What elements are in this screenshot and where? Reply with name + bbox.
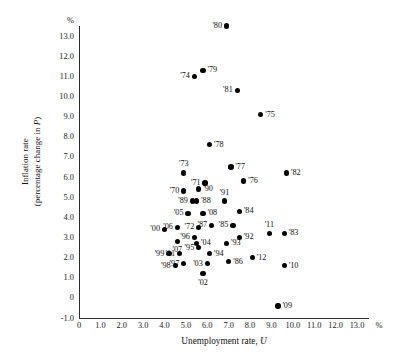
data-point-y11 bbox=[267, 231, 272, 236]
data-point-y05 bbox=[185, 211, 190, 216]
data-point-y74 bbox=[192, 74, 197, 79]
point-label-y04: '04 bbox=[201, 239, 211, 247]
point-label-y10: '10 bbox=[289, 262, 299, 270]
point-label-y85: '85 bbox=[219, 221, 229, 229]
scatter-chart: %13.012.011.010.09.08.07.06.05.04.03.02.… bbox=[0, 0, 400, 362]
point-label-y74: '74 bbox=[180, 72, 190, 80]
data-point-y07 bbox=[175, 239, 180, 244]
y-tick-3.0: 3.0 bbox=[40, 233, 74, 242]
data-point-y87 bbox=[209, 223, 214, 228]
y-tick-6.0: 6.0 bbox=[40, 173, 74, 182]
point-label-y75: '75 bbox=[265, 110, 275, 118]
point-label-y95: '95 bbox=[185, 243, 195, 251]
point-label-y78: '78 bbox=[214, 141, 224, 149]
data-point-y12 bbox=[250, 255, 255, 260]
data-point-y84 bbox=[237, 209, 242, 214]
data-point-y83 bbox=[282, 231, 287, 236]
point-label-y83: '83 bbox=[289, 229, 299, 237]
y-tick-1.0: 1.0 bbox=[40, 273, 74, 282]
point-label-y06: '06 bbox=[163, 223, 173, 231]
data-point-y10 bbox=[282, 263, 287, 268]
data-point-y94 bbox=[207, 251, 212, 256]
point-label-y90: '90 bbox=[203, 185, 213, 193]
point-label-y12: '12 bbox=[257, 253, 267, 261]
data-point-y90 bbox=[196, 186, 201, 191]
data-point-y91 bbox=[222, 198, 227, 203]
data-point-y06 bbox=[175, 225, 180, 230]
y-tick-0: 0 bbox=[40, 293, 74, 302]
data-point-y02 bbox=[200, 271, 205, 276]
data-point-y78 bbox=[207, 142, 212, 147]
point-label-y01: '01 bbox=[165, 249, 175, 257]
data-point-y82 bbox=[284, 170, 289, 175]
y-tick-4.0: 4.0 bbox=[40, 213, 74, 222]
data-point-y96 bbox=[192, 235, 197, 240]
data-point-y81 bbox=[235, 88, 240, 93]
point-label-y94: '94 bbox=[214, 249, 224, 257]
point-label-y03: '03 bbox=[193, 260, 203, 268]
data-point-y09 bbox=[275, 303, 280, 308]
data-point-y01 bbox=[177, 251, 182, 256]
point-label-y76: '76 bbox=[248, 177, 258, 185]
x-axis-title: Unemployment rate, U bbox=[79, 336, 369, 346]
y-tick-11.0: 11.0 bbox=[40, 72, 74, 81]
data-point-y95 bbox=[196, 245, 201, 250]
data-point-y93 bbox=[224, 241, 229, 246]
data-point-y08 bbox=[200, 211, 205, 216]
point-label-y02: '02 bbox=[198, 279, 208, 287]
data-point-y75 bbox=[258, 112, 263, 117]
data-point-y80 bbox=[224, 23, 229, 28]
data-point-y86 bbox=[226, 259, 231, 264]
point-label-y92: '92 bbox=[244, 233, 254, 241]
point-label-y73: '73 bbox=[179, 160, 189, 168]
point-label-y86: '86 bbox=[233, 257, 243, 265]
data-point-y88 bbox=[194, 198, 199, 203]
y-tick-8.0: 8.0 bbox=[40, 132, 74, 141]
y-axis-unit-label: % bbox=[40, 16, 74, 25]
data-point-y79 bbox=[200, 68, 205, 73]
point-label-y91: '91 bbox=[220, 188, 230, 196]
point-label-y70: '70 bbox=[170, 187, 180, 195]
y-tick-7.0: 7.0 bbox=[40, 152, 74, 161]
point-label-y72: '72 bbox=[185, 223, 195, 231]
y-tick-10.0: 10.0 bbox=[40, 92, 74, 101]
data-point-y73 bbox=[181, 170, 186, 175]
data-point-y76 bbox=[241, 178, 246, 183]
point-label-y09: '09 bbox=[282, 302, 292, 310]
y-tick-12.0: 12.0 bbox=[40, 52, 74, 61]
y-tick-13.0: 13.0 bbox=[40, 32, 74, 41]
point-label-y97: '97 bbox=[170, 260, 180, 268]
point-label-y79: '79 bbox=[208, 66, 218, 74]
y-tick-2.0: 2.0 bbox=[40, 253, 74, 262]
point-label-y89: '89 bbox=[178, 197, 188, 205]
y-axis-line bbox=[79, 26, 80, 319]
y-axis-title: Inflation rate(percentage change in P) bbox=[20, 87, 43, 237]
point-label-y93: '93 bbox=[231, 239, 241, 247]
point-label-y80: '80 bbox=[212, 22, 222, 30]
point-label-y82: '82 bbox=[291, 169, 301, 177]
point-label-y77: '77 bbox=[235, 163, 245, 171]
point-label-y99: '99 bbox=[155, 249, 165, 257]
data-point-y03 bbox=[205, 261, 210, 266]
point-label-y05: '05 bbox=[174, 209, 184, 217]
data-point-y70 bbox=[181, 188, 186, 193]
x-axis-line bbox=[79, 318, 369, 319]
point-label-y87: '87 bbox=[197, 221, 207, 229]
y-tick-9.0: 9.0 bbox=[40, 112, 74, 121]
point-label-y11: '11 bbox=[265, 221, 274, 229]
data-point-y97 bbox=[181, 261, 186, 266]
y-tick-5.0: 5.0 bbox=[40, 193, 74, 202]
point-label-y81: '81 bbox=[223, 86, 233, 94]
point-label-y96: '96 bbox=[180, 233, 190, 241]
x-axis-unit-label: % bbox=[364, 321, 394, 331]
point-label-y88: '88 bbox=[201, 197, 211, 205]
point-label-y00: '00 bbox=[150, 225, 160, 233]
data-point-y85 bbox=[230, 223, 235, 228]
point-label-y84: '84 bbox=[244, 207, 254, 215]
data-point-y77 bbox=[228, 164, 233, 169]
point-label-y08: '08 bbox=[208, 209, 218, 217]
